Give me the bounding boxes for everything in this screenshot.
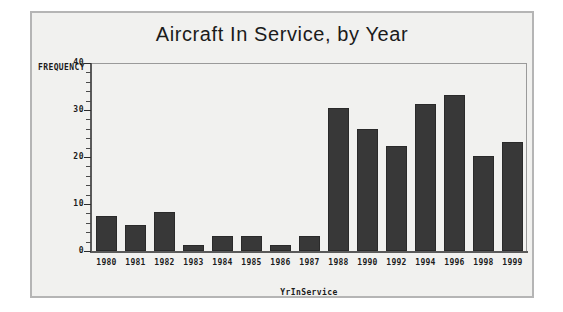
x-axis-tick-label: 1984 (208, 258, 237, 267)
y-axis-minor-tick (86, 138, 91, 139)
bar (125, 225, 146, 251)
y-axis-tick-label: 30 (38, 105, 84, 114)
x-axis-tick-labels: 1980198119821983198419851986198719881990… (92, 258, 527, 272)
y-axis-minor-tick (86, 148, 91, 149)
y-axis-tick-label: 0 (38, 246, 84, 255)
bar (241, 236, 262, 252)
bar (386, 146, 407, 251)
bar (415, 104, 436, 251)
y-axis-major-tick (84, 63, 91, 64)
y-axis-minor-tick (86, 91, 91, 92)
x-axis-tick-label: 1987 (295, 258, 324, 267)
bar-series (92, 63, 527, 251)
bar (183, 245, 204, 251)
y-axis-minor-tick (86, 223, 91, 224)
y-axis-minor-tick (86, 185, 91, 186)
y-axis-tick-label: 10 (38, 199, 84, 208)
bar (473, 156, 494, 251)
y-axis-major-tick (84, 110, 91, 111)
y-axis-tick-label: 40 (38, 58, 84, 67)
x-axis-tick-label: 1985 (237, 258, 266, 267)
x-axis-tick-label: 1996 (440, 258, 469, 267)
y-axis-minor-tick (86, 213, 91, 214)
bar (154, 212, 175, 251)
x-axis-tick-label: 1986 (266, 258, 295, 267)
y-axis-minor-tick (86, 176, 91, 177)
y-axis-minor-tick (86, 72, 91, 73)
bar (502, 142, 523, 252)
chart-title: Aircraft In Service, by Year (32, 23, 532, 46)
y-axis-minor-tick (86, 119, 91, 120)
x-axis-tick-label: 1981 (121, 258, 150, 267)
y-axis-tick-labels: 010203040 (32, 13, 84, 312)
x-axis-tick-label: 1994 (411, 258, 440, 267)
bar (270, 245, 291, 251)
bar (328, 108, 349, 251)
y-axis-minor-tick (86, 232, 91, 233)
y-axis-minor-tick (86, 242, 91, 243)
x-axis-tick-label: 1990 (353, 258, 382, 267)
x-axis-tick-label: 1992 (382, 258, 411, 267)
y-axis-minor-tick (86, 195, 91, 196)
y-axis-minor-tick (86, 82, 91, 83)
x-axis-tick-label: 1999 (498, 258, 527, 267)
x-axis-line (91, 251, 528, 253)
y-axis-minor-tick (86, 101, 91, 102)
y-axis-major-tick (84, 204, 91, 205)
chart-frame: Aircraft In Service, by Year FREQUENCY 0… (30, 11, 534, 298)
y-axis-minor-tick (86, 166, 91, 167)
y-axis-minor-tick (86, 129, 91, 130)
y-axis-tick-label: 20 (38, 152, 84, 161)
y-axis-major-tick (84, 251, 91, 252)
x-axis-label: YrInService (91, 288, 527, 297)
x-axis-tick-label: 1983 (179, 258, 208, 267)
y-axis-major-tick (84, 157, 91, 158)
bar (299, 236, 320, 252)
bar (357, 129, 378, 251)
chart-page: Aircraft In Service, by Year FREQUENCY 0… (0, 0, 563, 312)
bar (444, 95, 465, 252)
bar (212, 236, 233, 252)
x-axis-tick-label: 1980 (92, 258, 121, 267)
x-axis-tick-label: 1982 (150, 258, 179, 267)
bar (96, 216, 117, 251)
x-axis-tick-label: 1988 (324, 258, 353, 267)
x-axis-tick-label: 1998 (469, 258, 498, 267)
